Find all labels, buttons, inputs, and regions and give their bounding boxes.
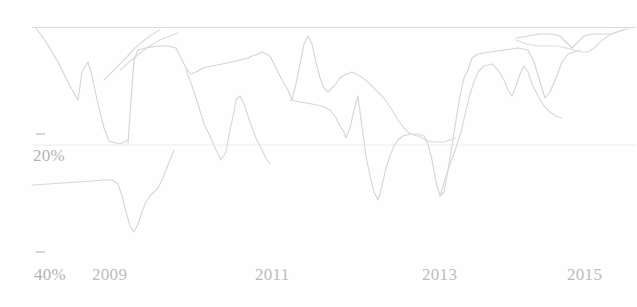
chart-screenshot: 20% 40% 2009 2011 2013 2015 — [0, 0, 637, 307]
x-axis-tick-label-2011: 2011 — [255, 265, 290, 285]
x-axis-tick-label-2013: 2013 — [422, 265, 457, 285]
x-axis-tick-label-2015: 2015 — [567, 265, 602, 285]
y-axis-tick-label-20: 20% — [33, 146, 65, 166]
y-axis-tick-label-40: 40% — [34, 265, 66, 285]
line-chart-canvas — [0, 0, 637, 307]
x-axis-tick-label-2009: 2009 — [92, 265, 127, 285]
